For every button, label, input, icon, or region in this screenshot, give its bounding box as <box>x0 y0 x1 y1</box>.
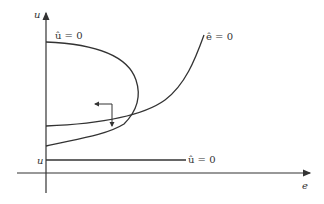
e-dot-nullcline <box>46 35 204 126</box>
u-bar-line-label: û = 0 <box>188 154 216 165</box>
phase-diagram: u e û = 0 ê = 0 û = 0 u <box>0 0 324 204</box>
e-dot-nullcline-label: ê = 0 <box>206 31 233 42</box>
u-dot-nullcline-label: û = 0 <box>55 30 83 41</box>
y-axis-label: u <box>34 9 40 20</box>
u-dot-nullcline <box>46 42 138 146</box>
level-label: u <box>37 155 43 166</box>
x-axis-label: e <box>302 180 308 191</box>
